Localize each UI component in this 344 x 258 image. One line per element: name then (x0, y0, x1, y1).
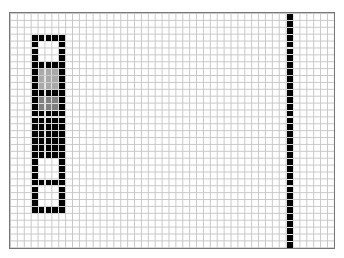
segmented-block-cell (59, 124, 65, 130)
segmented-block-cell (32, 166, 38, 172)
segmented-block-cell (32, 97, 38, 103)
segmented-block-cell (32, 69, 38, 75)
segmented-block-cell (59, 83, 65, 89)
segmented-block-cell (59, 42, 65, 48)
vertical-bar-cell (287, 221, 293, 227)
segmented-block-cell (46, 104, 52, 110)
segmented-block-cell (46, 180, 52, 186)
segmented-block-cell (52, 97, 58, 103)
vertical-bar-cell (287, 193, 293, 199)
vertical-bar-cell (287, 214, 293, 220)
segmented-block-cell (39, 76, 45, 82)
segmented-block-cell (59, 138, 65, 144)
segmented-block-cell (46, 76, 52, 82)
vertical-bar-cell (287, 49, 293, 55)
segmented-block-cell (52, 145, 58, 151)
segmented-block-cell (46, 118, 52, 124)
segmented-block-cell (39, 124, 45, 130)
pixel-grid-canvas[interactable] (9, 12, 335, 249)
segmented-block-cell (39, 207, 45, 213)
segmented-block-cell (59, 193, 65, 199)
vertical-bar-cell (287, 200, 293, 206)
segmented-block-cell (59, 49, 65, 55)
segmented-block-cell (52, 180, 58, 186)
segmented-block-cell (59, 152, 65, 158)
segmented-block-cell (39, 62, 45, 68)
vertical-bar-cell (287, 83, 293, 89)
vertical-bar-cell (287, 42, 293, 48)
vertical-bar-cell (287, 118, 293, 124)
segmented-block-cell (32, 49, 38, 55)
segmented-block-cell (46, 35, 52, 41)
segmented-block-cell (59, 166, 65, 172)
segmented-block-cell (39, 104, 45, 110)
segmented-block-cell (59, 187, 65, 193)
vertical-bar-cell (287, 228, 293, 234)
vertical-bar-cell (287, 111, 293, 117)
vertical-bar-cell (287, 173, 293, 179)
segmented-block-cell (39, 83, 45, 89)
segmented-block-cell (32, 118, 38, 124)
segmented-block-cell (46, 97, 52, 103)
segmented-block-cell (52, 104, 58, 110)
segmented-block-cell (52, 83, 58, 89)
segmented-block-cell (52, 124, 58, 130)
vertical-bar-cell (287, 55, 293, 61)
segmented-block-cell (32, 173, 38, 179)
vertical-bar-cell (287, 152, 293, 158)
segmented-block-cell (59, 97, 65, 103)
segmented-block-cell (52, 90, 58, 96)
segmented-block-cell (59, 118, 65, 124)
segmented-block-cell (32, 131, 38, 137)
vertical-bar-cell (287, 69, 293, 75)
segmented-block-cell (39, 152, 45, 158)
segmented-block-cell (39, 138, 45, 144)
segmented-block-cell (46, 83, 52, 89)
segmented-block-cell (59, 207, 65, 213)
segmented-block-cell (59, 145, 65, 151)
segmented-block-cell (39, 35, 45, 41)
vertical-bar-cell (287, 131, 293, 137)
segmented-block-cell (32, 104, 38, 110)
segmented-block-cell (32, 35, 38, 41)
vertical-bar-cell (287, 180, 293, 186)
vertical-bar-cell (287, 21, 293, 27)
vertical-bar-cell (287, 90, 293, 96)
segmented-block-cell (39, 90, 45, 96)
vertical-bar-cell (287, 97, 293, 103)
segmented-block-cell (39, 118, 45, 124)
segmented-block-cell (59, 55, 65, 61)
segmented-block-cell (32, 111, 38, 117)
vertical-bar-cell (287, 28, 293, 34)
segmented-block-cell (52, 118, 58, 124)
segmented-block-cell (32, 62, 38, 68)
segmented-block-cell (52, 62, 58, 68)
segmented-block-cell (46, 90, 52, 96)
vertical-bar-cell (287, 104, 293, 110)
vertical-bar-cell (287, 242, 293, 248)
segmented-block-cell (59, 62, 65, 68)
segmented-block-cell (52, 131, 58, 137)
vertical-bar-cell (287, 235, 293, 241)
vertical-bar-cell (287, 35, 293, 41)
segmented-block-cell (39, 69, 45, 75)
segmented-block-cell (32, 145, 38, 151)
vertical-bar-cell (287, 76, 293, 82)
segmented-block-cell (32, 207, 38, 213)
segmented-block-cell (32, 42, 38, 48)
segmented-block-cell (32, 76, 38, 82)
segmented-block-cell (46, 131, 52, 137)
segmented-block-cell (39, 145, 45, 151)
segmented-block-cell (46, 138, 52, 144)
segmented-block-cell (39, 111, 45, 117)
segmented-block-cell (46, 62, 52, 68)
segmented-block-cell (59, 111, 65, 117)
segmented-block-cell (32, 187, 38, 193)
segmented-block-cell (32, 193, 38, 199)
vertical-bar-cell (287, 124, 293, 130)
vertical-bar-cell (287, 145, 293, 151)
segmented-block-cell (59, 90, 65, 96)
segmented-block-cell (32, 138, 38, 144)
segmented-block-cell (59, 104, 65, 110)
segmented-block-cell (46, 111, 52, 117)
